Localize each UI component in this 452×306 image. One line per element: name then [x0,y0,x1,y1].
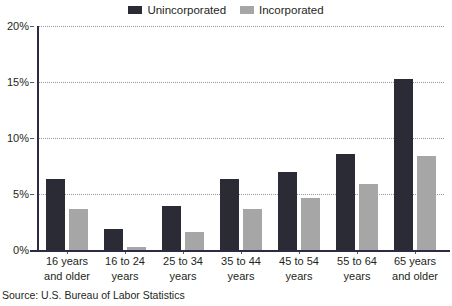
bar-incorporated [359,184,378,250]
y-tick-label: 10% [7,133,29,144]
legend-item-incorporated: Incorporated [240,4,324,17]
legend-label-unincorporated: Unincorporated [147,4,226,17]
x-axis-label-line: 55 to 64 [328,254,386,269]
x-axis-label: 55 to 64years [328,254,386,286]
x-axis-label-line: years [154,269,212,284]
legend-swatch-dark-icon [128,6,142,14]
x-axis-label-line: years [270,269,328,284]
source-note: Source: U.S. Bureau of Labor Statistics [2,289,185,302]
x-axis-label: 35 to 44years [212,254,270,286]
bar-incorporated [243,209,262,250]
bar-incorporated [69,209,88,250]
x-axis-labels: 16 yearsand older16 to 24years25 to 34ye… [38,254,444,286]
bar-unincorporated [394,79,413,250]
x-axis-label: 65 yearsand older [386,254,444,286]
y-tick-mark [30,82,34,83]
y-tick-mark [30,194,34,195]
y-tick-label: 5% [13,189,29,200]
bar-unincorporated [278,172,297,250]
bar-unincorporated [46,179,65,250]
x-axis-label: 45 to 54years [270,254,328,286]
x-axis-label-line: years [212,269,270,284]
bar-incorporated [417,156,436,250]
x-axis-label-line: 35 to 44 [212,254,270,269]
legend-swatch-gray-icon [240,6,254,14]
chart-legend: Unincorporated Incorporated [0,1,452,19]
bar-unincorporated [104,229,123,250]
x-axis-label: 16 to 24years [96,254,154,286]
plot-wrapper: 20%15%10%5%0% [0,20,452,260]
bar-group [212,26,270,250]
bar-groups [38,26,444,250]
y-tick-label: 15% [7,77,29,88]
bar-group [38,26,96,250]
x-axis-label-line: years [96,269,154,284]
x-axis-label-line: 45 to 54 [270,254,328,269]
x-axis-label-line: 25 to 34 [154,254,212,269]
y-tick-label: 0% [13,245,29,256]
x-axis-label: 16 yearsand older [38,254,96,286]
x-axis-label-line: years [328,269,386,284]
bar-group [270,26,328,250]
y-tick-label: 20% [7,21,29,32]
x-axis-label-line: and older [38,269,96,284]
x-axis-label-line: and older [386,269,444,284]
y-tick-mark [30,138,34,139]
bar-unincorporated [162,206,181,250]
bar-group [386,26,444,250]
bar-group [328,26,386,250]
x-axis-label-line: 16 to 24 [96,254,154,269]
x-axis-line [30,250,450,252]
y-tick-mark [30,26,34,27]
bar-incorporated [185,232,204,250]
legend-label-incorporated: Incorporated [259,4,324,17]
bar-unincorporated [336,154,355,250]
bar-group [154,26,212,250]
x-axis-label-line: 65 years [386,254,444,269]
bar-group [96,26,154,250]
y-axis: 20%15%10%5%0% [0,20,34,260]
bar-chart: Unincorporated Incorporated 20%15%10%5%0… [0,0,452,306]
bar-incorporated [301,198,320,250]
x-axis-label: 25 to 34years [154,254,212,286]
y-axis-line [37,26,39,251]
bar-unincorporated [220,179,239,250]
legend-item-unincorporated: Unincorporated [128,4,226,17]
x-axis-label-line: 16 years [38,254,96,269]
plot-area [38,26,444,250]
